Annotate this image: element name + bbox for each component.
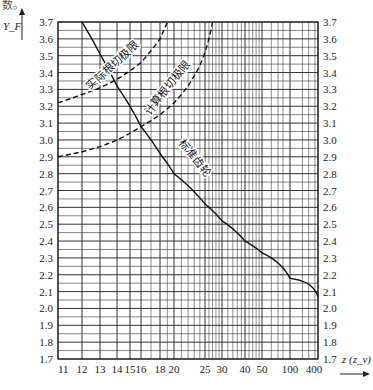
y-tick-label-left: 2.8 (39, 168, 53, 180)
y-tick-label-right: 2.0 (323, 302, 337, 314)
y-tick-label-left: 2.6 (39, 201, 53, 213)
x-tick-label: 50 (257, 363, 269, 375)
y-tick-label-right: 3.1 (323, 117, 337, 129)
y-tick-label-right: 2.1 (323, 286, 337, 298)
x-tick-label: 16 (136, 363, 148, 375)
x-tick-label: 30 (217, 363, 229, 375)
y-tick-label-right: 2.8 (323, 168, 337, 180)
y-tick-label-left: 1.7 (39, 353, 53, 365)
y-tick-label-right: 1.9 (323, 319, 337, 331)
arrow-right-icon (363, 371, 370, 377)
y-tick-label-left: 3.3 (39, 83, 53, 95)
x-tick-label: 400 (306, 363, 323, 375)
y-tick-label-left: 3.4 (39, 67, 53, 79)
y-tick-label-left: 1.8 (39, 336, 53, 348)
x-tick-label: 13 (95, 363, 107, 375)
y-tick-label-left: 2.9 (39, 151, 53, 163)
y-tick-label-right: 3.2 (323, 100, 337, 112)
curve-annotation: 实际根切极限 (83, 38, 141, 93)
x-tick-label: 25 (200, 363, 212, 375)
y-tick-label-right: 3.6 (323, 33, 337, 45)
y-tick-label-right: 2.7 (323, 185, 337, 197)
y-tick-label-left: 3.1 (39, 117, 53, 129)
y-tick-label-left: 2.2 (39, 269, 53, 281)
arrow-up-icon (19, 8, 25, 15)
x-tick-label: 18 (155, 363, 167, 375)
y-tick-label-left: 2.0 (39, 302, 53, 314)
x-tick-label: 14 (112, 363, 124, 375)
x-tick-label: 15 (125, 363, 137, 375)
x-tick-label: 12 (77, 363, 88, 375)
y-tick-label-left: 2.7 (39, 185, 53, 197)
y-tick-label-right: 3.4 (323, 67, 337, 79)
y-tick-label-right: 3.0 (323, 134, 337, 146)
y-tick-label-right: 2.5 (323, 218, 337, 230)
y-tick-label-left: 2.4 (39, 235, 53, 247)
y-tick-label-left: 2.3 (39, 252, 53, 264)
x-tick-label: 11 (58, 363, 69, 375)
chart-canvas: 实际根切极限计算根切极限标准齿轮 1.71.71.81.81.91.92.02.… (0, 0, 373, 390)
y-tick-label-right: 2.6 (323, 201, 337, 213)
y-tick-label-left: 3.7 (39, 16, 53, 28)
y-tick-label-left: 3.5 (39, 50, 53, 62)
y-tick-label-right: 2.3 (323, 252, 337, 264)
y-tick-label-right: 3.5 (323, 50, 337, 62)
curve-annotation: 标准齿轮 (176, 136, 214, 179)
x-tick-label: 100 (282, 363, 299, 375)
y-tick-label-right: 1.8 (323, 336, 337, 348)
y-tick-label-left: 1.9 (39, 319, 53, 331)
y-tick-label-right: 3.3 (323, 83, 337, 95)
x-tick-label: 20 (169, 363, 181, 375)
y-tick-label-left: 3.6 (39, 33, 53, 45)
y-tick-label-left: 3.0 (39, 134, 53, 146)
x-tick-label: 40 (240, 363, 252, 375)
y-tick-label-right: 2.4 (323, 235, 337, 247)
y-tick-label-right: 3.7 (323, 16, 337, 28)
y-tick-label-left: 2.5 (39, 218, 53, 230)
y-tick-label-left: 2.1 (39, 286, 53, 298)
y-tick-label-right: 1.7 (323, 353, 337, 365)
y-tick-label-right: 2.2 (323, 269, 337, 281)
y-tick-label-left: 3.2 (39, 100, 53, 112)
y-tick-label-right: 2.9 (323, 151, 337, 163)
